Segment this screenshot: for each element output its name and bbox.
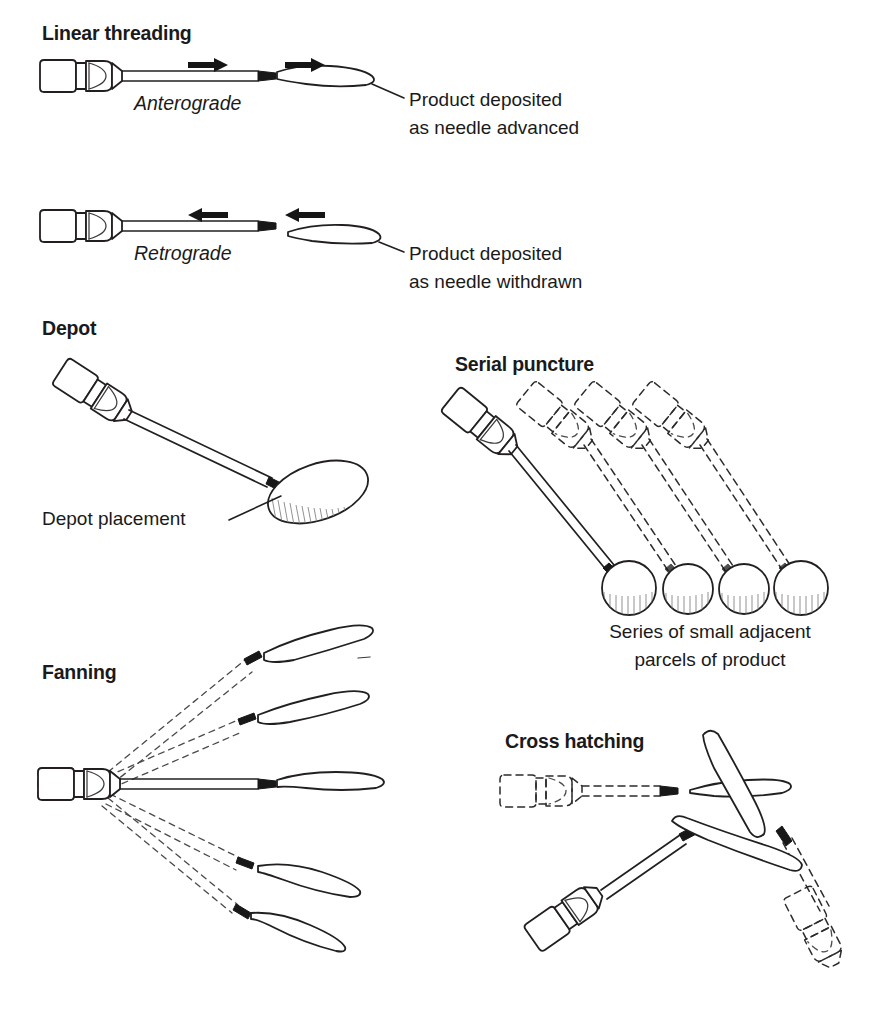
serial-puncture-illustration: [440, 380, 828, 617]
heading-depot: Depot: [42, 317, 96, 341]
puncture-deposit: [719, 564, 769, 614]
arrow-left-icon: [285, 208, 325, 222]
label-retrograde: Retrograde: [134, 242, 232, 266]
heading-fanning: Fanning: [42, 661, 116, 685]
figure-artwork: [0, 0, 870, 1012]
depot-deposit: [260, 449, 377, 536]
caption-retrograde-line1: Product deposited: [409, 242, 562, 265]
fanning-trail: [264, 625, 373, 662]
fanning-trail: [258, 691, 369, 724]
caption-anterograde-line2: as needle advanced: [409, 116, 579, 139]
caption-serial-puncture-line2: parcels of product: [580, 648, 840, 671]
arrow-right-icon: [188, 58, 228, 72]
injection-techniques-figure: Linear threading Anterograde Product dep…: [0, 0, 870, 1012]
caption-anterograde-line1: Product deposited: [409, 88, 562, 111]
fanning-trail: [258, 864, 360, 897]
fanning-trail: [251, 913, 345, 952]
puncture-deposit: [663, 564, 713, 614]
caption-depot-placement: Depot placement: [42, 507, 186, 530]
heading-serial-puncture: Serial puncture: [455, 353, 594, 377]
heading-linear-threading: Linear threading: [42, 22, 192, 46]
cross-hatching-illustration: [500, 731, 849, 973]
arrow-left-icon: [188, 208, 228, 222]
label-anterograde: Anterograde: [134, 92, 241, 116]
fanning-trail: [277, 772, 384, 790]
caption-serial-puncture-line1: Series of small adjacent: [580, 620, 840, 643]
caption-retrograde-line2: as needle withdrawn: [409, 270, 582, 293]
heading-cross-hatching: Cross hatching: [505, 730, 644, 754]
